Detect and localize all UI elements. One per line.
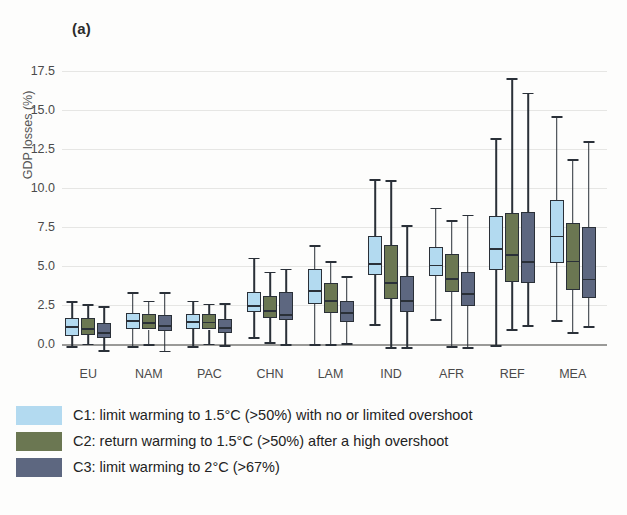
figure-root: (a) GDP losses (%) 0.02.55.07.510.012.51… [0, 0, 627, 515]
whisker-cap-lower [67, 346, 78, 348]
whisker-cap-upper [67, 301, 78, 303]
whisker-lower [314, 304, 316, 345]
whisker-upper [269, 272, 271, 296]
boxplot-c2-lam [324, 55, 338, 360]
whisker-cap-upper [507, 78, 518, 80]
whisker-cap-upper [491, 138, 502, 140]
box-iqr [368, 236, 382, 275]
whisker-cap-lower [446, 346, 457, 348]
whisker-lower [71, 336, 73, 346]
box-iqr [247, 292, 261, 312]
box-iqr [218, 319, 232, 333]
legend-row[interactable]: C3: limit warming to 2°C (>67%) [16, 454, 616, 480]
median-line [400, 300, 414, 302]
box-iqr [550, 200, 564, 263]
whisker-cap-upper [127, 292, 138, 294]
whisker-upper [164, 292, 166, 315]
median-line [81, 328, 95, 330]
whisker-cap-lower [386, 347, 397, 349]
x-tick-label: MEA [559, 367, 586, 381]
whisker-lower [588, 298, 590, 326]
boxplot-c3-afr [461, 55, 475, 360]
boxplot-c3-pac [218, 55, 232, 360]
boxplot-c3-nam [158, 55, 172, 360]
whisker-cap-lower [220, 345, 231, 347]
boxplot-c2-chn [263, 55, 277, 360]
whisker-lower [374, 275, 376, 324]
whisker-lower [148, 330, 150, 345]
boxplot-c2-mea [566, 55, 580, 360]
whisker-upper [588, 141, 590, 227]
whisker-cap-upper [567, 159, 578, 161]
median-line [461, 293, 475, 295]
median-line [429, 265, 443, 267]
y-tick-label: 0.0 [38, 337, 55, 351]
whisker-cap-upper [280, 269, 291, 271]
whisker-upper [495, 138, 497, 216]
whisker-cap-upper [430, 208, 441, 210]
box-iqr [461, 272, 475, 306]
whisker-lower [253, 312, 255, 337]
whisker-upper [285, 269, 287, 292]
whisker-cap-upper [402, 225, 413, 227]
whisker-cap-upper [188, 301, 199, 303]
legend-row[interactable]: C1: limit warming to 1.5°C (>50%) with n… [16, 402, 616, 428]
whisker-cap-upper [341, 276, 352, 278]
whisker-cap-lower [143, 344, 154, 346]
whisker-upper [556, 116, 558, 200]
legend-label: C1: limit warming to 1.5°C (>50%) with n… [73, 408, 472, 423]
whisker-lower [269, 318, 271, 342]
whisker-lower [285, 320, 287, 344]
boxplot-c2-afr [445, 55, 459, 360]
whisker-upper [572, 159, 574, 223]
median-line [368, 263, 382, 265]
boxplot-c3-ref [521, 55, 535, 360]
median-line [126, 320, 140, 322]
whisker-upper [314, 245, 316, 269]
whisker-cap-upper [143, 301, 154, 303]
whisker-lower [556, 263, 558, 320]
whisker-cap-upper [370, 179, 381, 181]
whisker-cap-lower [325, 344, 336, 346]
median-line [521, 261, 535, 263]
whisker-cap-lower [341, 343, 352, 345]
whisker-lower [132, 329, 134, 346]
whisker-cap-lower [402, 347, 413, 349]
median-line [489, 248, 503, 250]
whisker-upper [406, 225, 408, 276]
whisker-upper [225, 303, 227, 319]
whisker-lower [103, 338, 105, 350]
whisker-cap-lower [370, 324, 381, 326]
boxplot-c3-ind [400, 55, 414, 360]
boxplot-c1-eu [65, 55, 79, 360]
whisker-cap-lower [280, 344, 291, 346]
whisker-cap-lower [309, 344, 320, 346]
whisker-cap-upper [386, 180, 397, 182]
whisker-lower [209, 330, 211, 344]
whisker-cap-lower [248, 337, 259, 339]
whisker-upper [148, 301, 150, 314]
whisker-cap-upper [204, 304, 215, 306]
whisker-lower [406, 312, 408, 347]
whisker-cap-upper [462, 215, 473, 217]
boxplot-c2-nam [142, 55, 156, 360]
whisker-upper [71, 301, 73, 317]
box-iqr [445, 254, 459, 292]
legend-row[interactable]: C2: return warming to 1.5°C (>50%) after… [16, 428, 616, 454]
box-iqr [308, 269, 322, 303]
box-iqr [505, 213, 519, 282]
whisker-lower [511, 282, 513, 329]
median-line [263, 310, 277, 312]
median-line [158, 325, 172, 327]
box-iqr [279, 292, 293, 320]
boxplot-c1-mea [550, 55, 564, 360]
box-iqr [400, 276, 414, 312]
whisker-lower [390, 299, 392, 347]
whisker-cap-upper [583, 141, 594, 143]
x-tick-label: REF [500, 367, 525, 381]
whisker-cap-upper [446, 220, 457, 222]
whisker-upper [390, 180, 392, 245]
median-line [308, 290, 322, 292]
legend-swatch-c2 [16, 432, 62, 451]
whisker-cap-upper [159, 292, 170, 294]
